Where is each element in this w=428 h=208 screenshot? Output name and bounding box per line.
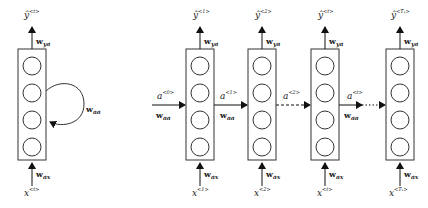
w-ax-label: wax [35,169,51,180]
w-ya-label: wya [403,36,418,48]
transition-1: a<1> waa [214,89,247,121]
rnn-cell-1: wya ŷ<1> wax x<1> [186,8,219,198]
rnn-cell-2: wya ŷ<2> wax x<2> [248,8,281,198]
output-y-label: ŷ<1> [192,8,210,20]
folded-rnn-cell: wya ŷ<t> wax x<t> waa [18,8,101,198]
cell-box [186,49,214,160]
input-x-label: x<Tₓ> [389,186,408,198]
input-x-label: x<2> [254,186,271,198]
transition-t: a<t> waa [339,89,385,121]
w-ax-label: wax [203,169,219,180]
cell-box [311,49,339,160]
rnn-diagram: wya ŷ<t> wax x<t> waa a<0> waa wya ŷ<1> … [0,0,428,208]
output-y-label: ŷ<t> [317,8,333,20]
transition-2: a<2> [276,89,310,105]
input-x-label: x<t> [317,186,332,198]
cell-box [248,49,276,160]
a2-label: a<2> [283,89,300,101]
a1-label: a<1> [220,89,237,101]
output-y-label: ŷ<Tᵧ> [390,8,410,20]
rnn-cell-t: wya ŷ<t> wax x<t> [311,8,344,198]
initial-state: a<0> waa [152,89,185,121]
w-ya-label: wya [328,36,343,48]
at-label: a<t> [347,89,363,101]
w-aa-label: waa [343,110,359,121]
output-y-label: ŷ<2> [254,8,272,20]
w-aa-label: waa [155,110,171,121]
cell-box [386,49,414,160]
w-ya-label: wya [265,36,280,48]
w-ya-label: wya [203,36,218,48]
input-x-label: x<1> [192,186,209,198]
rnn-cell-final: wya ŷ<Tᵧ> wax x<Tₓ> [386,8,419,198]
w-aa-label: waa [219,110,235,121]
input-x-label: x<t> [24,186,39,198]
a0-label: a<0> [157,89,174,101]
cell-box [18,49,46,160]
w-ax-label: wax [265,169,281,180]
recurrent-loop-arrow [46,84,84,125]
w-aa-label: waa [85,104,101,115]
w-ax-label: wax [328,169,344,180]
output-y-label: ŷ<t> [23,8,39,20]
w-ax-label: wax [403,169,419,180]
w-ya-label: wya [35,36,50,48]
